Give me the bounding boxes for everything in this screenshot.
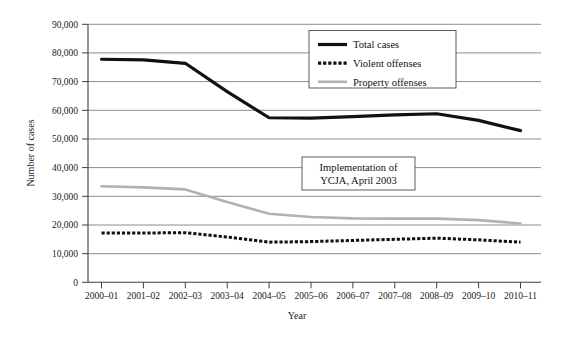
y-tick-label: 30,000 xyxy=(52,192,78,202)
x-tick-label: 2003–04 xyxy=(211,291,245,301)
y-tick-label: 80,000 xyxy=(52,48,78,58)
x-tick-label: 2004–05 xyxy=(252,291,286,301)
annotation-line-2: YCJA, April 2003 xyxy=(320,175,397,186)
legend-label-property-offenses: Property offenses xyxy=(353,77,427,88)
y-tick-label: 0 xyxy=(73,278,78,288)
y-tick-label: 10,000 xyxy=(52,249,78,259)
legend: Total cases Violent offenses Property of… xyxy=(309,31,456,89)
x-tick-label: 2001–02 xyxy=(127,291,161,301)
x-tick-label: 2000–01 xyxy=(85,291,119,301)
y-tick-label: 40,000 xyxy=(52,163,78,173)
x-tick-label: 2006–07 xyxy=(336,291,370,301)
y-tick-label: 20,000 xyxy=(52,220,78,230)
y-axis-ticks xyxy=(82,24,88,282)
x-axis-ticks xyxy=(102,282,521,288)
line-chart-canvas: 90,000 80,000 70,000 60,000 50,000 40,00… xyxy=(0,0,564,337)
y-tick-label: 50,000 xyxy=(52,134,78,144)
property-offenses-line xyxy=(102,186,521,223)
series-violent-offenses xyxy=(102,233,521,242)
chart-figure: 90,000 80,000 70,000 60,000 50,000 40,00… xyxy=(0,0,564,337)
series-property-offenses xyxy=(102,186,521,223)
x-axis-tick-labels: 2000–01 2001–02 2002–03 2003–04 2004–05 … xyxy=(85,291,537,301)
legend-label-violent-offenses: Violent offenses xyxy=(353,58,421,69)
y-tick-label: 90,000 xyxy=(52,20,78,30)
x-axis-title: Year xyxy=(288,310,307,321)
annotation-ycja: Implementation of YCJA, April 2003 xyxy=(302,157,415,190)
violent-offenses-line xyxy=(102,233,521,242)
y-axis-title: Number of cases xyxy=(25,119,36,186)
y-tick-label: 70,000 xyxy=(52,77,78,87)
x-tick-label: 2008–09 xyxy=(420,291,454,301)
x-tick-label: 2007–08 xyxy=(378,291,412,301)
y-axis-tick-labels: 90,000 80,000 70,000 60,000 50,000 40,00… xyxy=(52,20,78,288)
x-tick-label: 2005–06 xyxy=(294,291,328,301)
legend-label-total-cases: Total cases xyxy=(353,39,399,50)
y-tick-label: 60,000 xyxy=(52,106,78,116)
annotation-line-1: Implementation of xyxy=(320,162,398,173)
x-tick-label: 2002–03 xyxy=(169,291,203,301)
x-tick-label: 2010–11 xyxy=(504,291,537,301)
x-tick-label: 2009–10 xyxy=(462,291,496,301)
